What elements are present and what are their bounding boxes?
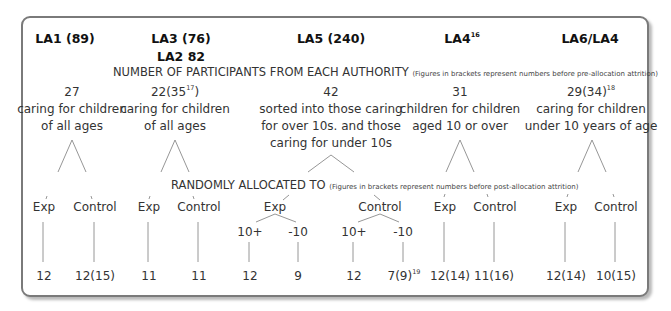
participant-count-la6: 29(34)18 — [567, 86, 615, 98]
group-exp-la1: Exp — [33, 201, 55, 213]
result-la4-control: 11(16) — [474, 270, 514, 282]
participant-desc: caring for children — [120, 103, 230, 115]
split-lines-la4 — [446, 140, 474, 172]
authority-la4: LA416 — [444, 33, 479, 46]
split-lines-la6 — [578, 140, 606, 172]
split-lines-la3 — [161, 140, 189, 172]
allocation-caption: RANDOMLY ALLOCATED TO (Figures in bracke… — [171, 180, 578, 192]
group-exp-la6: Exp — [555, 201, 577, 213]
participant-count-la3: 22(3517) — [151, 86, 199, 98]
authority-la6: LA6/LA4 — [561, 33, 618, 46]
participant-count-la4: 31 — [452, 86, 467, 98]
participant-desc: children for children — [400, 103, 520, 115]
participant-desc: for over 10s. and those — [261, 120, 401, 132]
result-la5-exp-under10: 9 — [294, 270, 302, 282]
group-exp-la5: Exp — [264, 201, 286, 213]
participant-desc: of all ages — [144, 120, 206, 132]
group-exp-la4: Exp — [434, 201, 456, 213]
subgroup-over10-exp: 10+ — [237, 226, 262, 238]
participant-count-la1: 27 — [64, 86, 79, 98]
result-la3-control: 11 — [191, 270, 206, 282]
subgroup-over10-control: 10+ — [341, 226, 366, 238]
tree-connectors — [0, 0, 671, 311]
result-la5-exp-over10: 12 — [242, 270, 257, 282]
subgroup-under10-control: -10 — [393, 226, 413, 238]
participants-caption: NUMBER OF PARTICIPANTS FROM EACH AUTHORI… — [113, 67, 658, 79]
result-la1-control: 12(15) — [75, 270, 115, 282]
participant-desc: aged 10 or over — [412, 120, 508, 132]
result-la5-control-over10: 12 — [346, 270, 361, 282]
participant-desc: under 10 years of age — [525, 120, 658, 132]
subgroup-under10-exp: -10 — [288, 226, 308, 238]
participant-desc: of all ages — [41, 120, 103, 132]
participant-desc: caring for children — [17, 103, 127, 115]
group-control-la4: Control — [473, 201, 516, 213]
authority-la1: LA1 (89) — [35, 33, 95, 46]
participant-desc: sorted into those caring — [259, 103, 402, 115]
result-la3-exp: 11 — [141, 270, 156, 282]
result-la6-control: 10(15) — [596, 270, 636, 282]
authority-la3: LA3 (76) — [151, 33, 211, 46]
split-lines-la1 — [58, 140, 86, 172]
result-la6-exp: 12(14) — [546, 270, 586, 282]
group-control-la5: Control — [358, 201, 401, 213]
group-control-la6: Control — [594, 201, 637, 213]
result-la1-exp: 12 — [36, 270, 51, 282]
participant-count-la5: 42 — [323, 86, 338, 98]
result-la5-control-under10: 7(9)19 — [388, 270, 421, 282]
split-lines-la5 — [308, 155, 354, 172]
group-control-la3: Control — [177, 201, 220, 213]
authority-la2: LA2 82 — [157, 51, 205, 64]
result-la4-exp: 12(14) — [430, 270, 470, 282]
participant-desc: caring for under 10s — [270, 137, 392, 149]
group-exp-la3: Exp — [138, 201, 160, 213]
group-control-la1: Control — [73, 201, 116, 213]
authority-la5: LA5 (240) — [297, 33, 365, 46]
participant-desc: caring for children — [536, 103, 646, 115]
